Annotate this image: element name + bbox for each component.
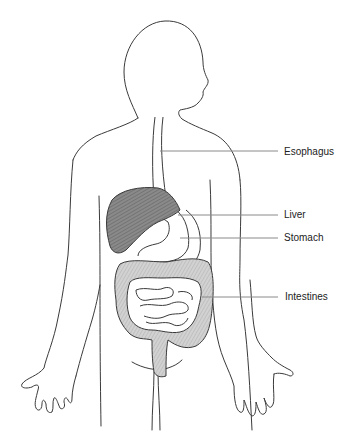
body-outline-illustration [0,0,356,443]
esophagus-label: Esophagus [284,146,334,158]
digestive-system-diagram: Esophagus Liver Stomach Intestines [0,0,356,443]
liver-label: Liver [284,209,306,221]
stomach-label: Stomach [284,232,323,244]
leg-split-right [158,372,160,430]
left-torso [99,196,101,426]
right-torso [240,180,252,430]
left-arm-inner [76,285,100,376]
left-shoulder [73,118,138,160]
leg-split-left [152,372,154,430]
left-arm-outer [22,160,76,413]
head-outline [124,21,240,180]
intestines-label: Intestines [285,291,328,303]
liver [107,188,181,253]
